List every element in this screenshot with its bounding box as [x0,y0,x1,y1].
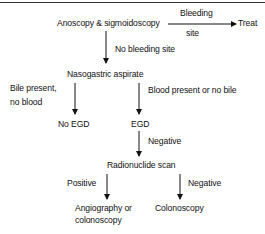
flowchart-connectors [0,0,265,234]
node-treat: Treat [238,18,257,29]
node-nasogastric-aspirate: Nasogastric aspirate [67,69,143,80]
edge-label-positive: Positive [67,178,96,189]
node-egd: EGD [131,119,149,130]
node-no-egd: No EGD [58,119,89,130]
edge-label-site: site [186,28,199,39]
edge-label-bile-present-line2: no blood [10,97,42,108]
edge-label-no-bleeding-site: No bleeding site [115,44,175,55]
node-angiography-line1: Angiography or [75,203,132,214]
node-angiography-line2: colonoscopy [75,215,122,226]
edge-label-blood-present: Blood present or no bile [148,85,236,96]
edge-label-bleeding: Bleeding [180,8,213,19]
node-colonoscopy: Colonoscopy [155,203,204,214]
edge-label-egd-negative: Negative [148,136,181,147]
node-anoscopy-sigmoidoscopy: Anoscopy & sigmoidoscopy [57,18,160,29]
node-radionuclide-scan: Radionuclide scan [107,160,176,171]
edge-label-bile-present-line1: Bile present, [10,83,56,94]
edge-label-scan-negative: Negative [188,178,221,189]
